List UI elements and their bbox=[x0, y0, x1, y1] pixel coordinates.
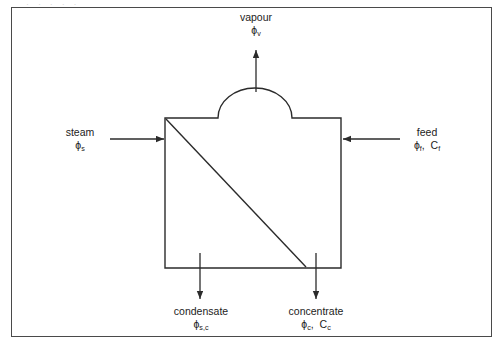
condensate-symbol-sub: s,c bbox=[199, 323, 208, 332]
concentrate-label-text: concentrate bbox=[289, 305, 344, 317]
steam-label: steam ϕs bbox=[52, 126, 108, 155]
condensate-label-text: condensate bbox=[174, 305, 228, 317]
evaporator-diagram bbox=[0, 0, 503, 347]
condensate-symbol: ϕs,c bbox=[152, 318, 250, 334]
steam-label-text: steam bbox=[66, 126, 95, 138]
vessel-diagonal-line bbox=[166, 119, 306, 267]
feed-label: feed ϕf, Cf bbox=[396, 126, 458, 155]
vessel-outline bbox=[165, 88, 341, 268]
concentrate-flow-sub: c bbox=[307, 323, 311, 332]
vessel-body-path bbox=[165, 88, 341, 268]
vapour-label-text: vapour bbox=[240, 11, 272, 23]
figure-page: · · · · · vapour ϕv st bbox=[0, 0, 503, 347]
feed-flow-sub: f bbox=[420, 144, 422, 153]
condensate-label: condensate ϕs,c bbox=[152, 305, 250, 334]
concentrate-conc-sub: c bbox=[327, 323, 331, 332]
feed-label-text: feed bbox=[417, 126, 437, 138]
feed-conc-sub: f bbox=[438, 144, 440, 153]
steam-symbol: ϕs bbox=[52, 139, 108, 155]
feed-symbol: ϕf, Cf bbox=[396, 139, 458, 155]
concentrate-symbol: ϕc, Cc bbox=[264, 318, 368, 334]
concentrate-label: concentrate ϕc, Cc bbox=[264, 305, 368, 334]
vapour-label: vapour ϕv bbox=[218, 11, 294, 40]
vapour-symbol: ϕv bbox=[218, 24, 294, 40]
concentrate-conc-base: C bbox=[320, 318, 328, 330]
steam-symbol-sub: s bbox=[81, 144, 85, 153]
feed-conc-base: C bbox=[431, 139, 439, 151]
vapour-symbol-sub: v bbox=[257, 29, 261, 38]
